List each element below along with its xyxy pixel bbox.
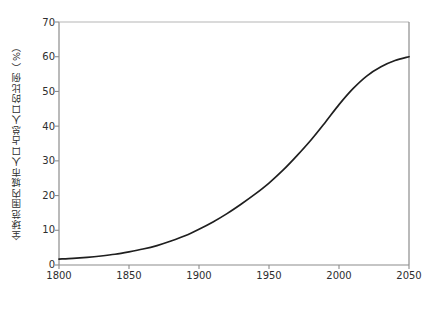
data-line-series: [59, 57, 409, 259]
chart-container: 全球范围内城市人口占总人口的比例（%） 70 60 50 40 30 20 10…: [0, 0, 438, 317]
plot-area: [0, 0, 438, 317]
